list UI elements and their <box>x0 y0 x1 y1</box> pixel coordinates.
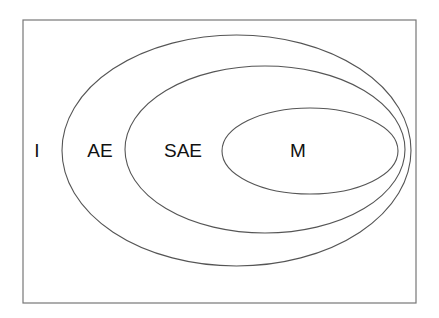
nested-set-diagram: I AE SAE M <box>0 0 439 318</box>
label-AE: AE <box>87 140 112 161</box>
universe-frame-I <box>23 20 416 303</box>
label-SAE: SAE <box>164 140 202 161</box>
label-I: I <box>34 140 39 161</box>
ellipse-M <box>222 108 398 194</box>
label-M: M <box>290 140 306 161</box>
